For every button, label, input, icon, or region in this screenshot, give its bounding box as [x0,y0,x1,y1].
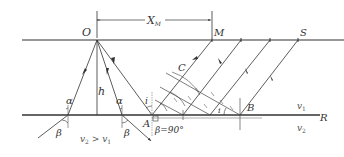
arc-i-A [146,106,152,108]
label-beta90: β=90° [154,125,184,135]
wavefront-3 [155,100,183,115]
refracted-left [38,115,68,138]
wavefront-1 [166,73,240,115]
label-beta-right: β [123,127,130,138]
label-v1: v1 [297,101,306,112]
ray-O-left-arrow [82,68,87,75]
headwave-ray-2 [183,40,241,115]
xm-label: XM [146,14,162,27]
label-i-A: i [145,96,148,106]
label-S: S [300,27,307,38]
headwave-arrow-2 [218,58,222,64]
label-O: O [82,26,91,39]
label-beta-left: β [55,127,62,138]
headwave-arrow-1 [192,56,198,60]
wavefront-2 [160,87,210,115]
wavefront-arc-3 [172,72,200,95]
ray-O-to-A [97,40,152,115]
headwave-arrow-4 [270,75,273,81]
label-alpha-left: α [66,95,73,106]
label-h: h [98,85,105,98]
label-R: R [319,112,328,123]
arc-beta-left [62,120,68,123]
wave-ticks [174,88,233,110]
right-angle-mark [153,116,158,121]
arc-i-B [224,108,226,115]
label-v2: v2 [297,123,306,134]
label-condition: v2 > v1 [80,134,111,145]
label-i-B: i [218,106,221,115]
label-M: M [213,27,225,38]
headwave-ray-4 [240,40,298,115]
label-alpha-right: α [116,95,123,106]
arc-beta-right [122,120,128,123]
label-B: B [246,102,254,113]
label-A: A [142,118,150,129]
label-C: C [178,62,186,73]
seismic-refraction-diagram: XM O M S h α α β β i A β=90° B R C i v1 … [0,0,344,157]
